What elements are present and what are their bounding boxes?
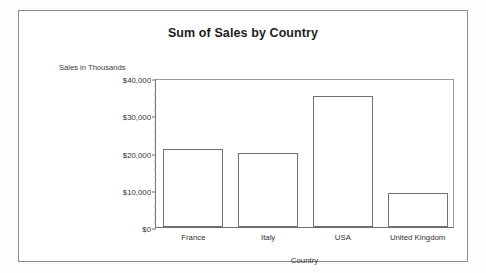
y-axis-minor-tick (154, 147, 156, 148)
y-axis-tick-label: $10,000 (123, 187, 151, 196)
bar-france[interactable] (163, 149, 223, 227)
x-axis-label-france: France (181, 233, 205, 242)
bar-united-kingdom[interactable] (388, 193, 448, 227)
y-axis-major-tick (152, 80, 156, 81)
y-axis-minor-tick (154, 161, 156, 162)
y-axis-minor-tick (154, 184, 156, 185)
y-axis-major-tick (152, 154, 156, 155)
x-axis-title: Country (155, 256, 454, 265)
y-axis-minor-tick (154, 169, 156, 170)
y-axis-title: Sales in Thousands (59, 63, 126, 72)
y-axis-minor-tick (154, 139, 156, 140)
y-axis-minor-tick (154, 94, 156, 95)
chart-outer-frame: Sum of Sales by Country Sales in Thousan… (18, 10, 468, 262)
plot-area: $0$10,000$20,000$30,000$40,000 FranceIta… (155, 79, 454, 228)
y-axis-tick-label: $0 (142, 225, 151, 234)
chart-screenshot: Sum of Sales by Country Sales in Thousan… (0, 0, 486, 273)
x-axis-label-united-kingdom: United Kingdom (390, 233, 445, 242)
x-axis-label-usa: USA (335, 233, 351, 242)
y-axis-minor-tick (154, 206, 156, 207)
y-axis-minor-tick (154, 124, 156, 125)
y-axis-major-tick (152, 191, 156, 192)
y-axis-minor-tick (154, 102, 156, 103)
y-axis-major-tick (152, 117, 156, 118)
bar-usa[interactable] (313, 96, 373, 227)
y-axis-minor-tick (154, 214, 156, 215)
y-axis-minor-tick (154, 132, 156, 133)
y-axis-minor-tick (154, 109, 156, 110)
y-axis-minor-tick (154, 221, 156, 222)
y-axis-tick-label: $30,000 (123, 113, 151, 122)
y-axis-tick-label: $40,000 (123, 76, 151, 85)
y-axis-minor-tick (154, 87, 156, 88)
y-axis-major-tick (152, 229, 156, 230)
x-axis-label-italy: Italy (261, 233, 275, 242)
chart-title: Sum of Sales by Country (19, 26, 467, 40)
y-axis-minor-tick (154, 199, 156, 200)
y-axis-tick-label: $20,000 (123, 150, 151, 159)
bar-italy[interactable] (238, 153, 298, 227)
y-axis-minor-tick (154, 176, 156, 177)
